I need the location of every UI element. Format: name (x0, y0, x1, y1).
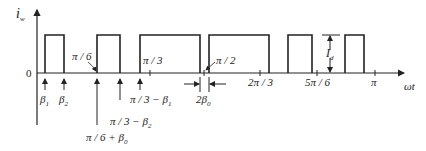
pulse-2 (97, 35, 120, 73)
origin-label: 0 (26, 67, 32, 79)
pi3-minus-beta1-label: π / 3 − β1 (130, 93, 171, 108)
five-pi6-label: 5π / 6 (305, 76, 331, 88)
pi2-label: π / 2 (216, 54, 236, 66)
pi3-minus-beta2-label: π / 3 − β2 (110, 115, 152, 130)
amplitude-label: Id (325, 46, 334, 62)
x-axis-label: ωt (404, 80, 416, 92)
pi-label: π (371, 76, 377, 88)
pi6-pointer (88, 62, 96, 71)
pulse-5 (288, 35, 312, 73)
two-beta0-dimension (184, 77, 226, 92)
pulse-train (45, 35, 364, 73)
pulse-1 (45, 35, 64, 73)
two-beta0-label: 2β0 (196, 93, 211, 108)
beta1-label: β1 (39, 93, 49, 108)
pi6-label: π / 6 (72, 50, 92, 62)
pi3-label: π / 3 (143, 54, 163, 66)
two-pi3-label: 2π / 3 (248, 76, 274, 88)
y-axis-label: iw (16, 6, 25, 23)
waveform-diagram: iw 0 ωt Id π / (0, 0, 426, 151)
pi2-pointer (206, 62, 215, 70)
beta2-label: β2 (58, 93, 68, 108)
pi6-plus-beta0-label: π / 6 + β0 (86, 131, 128, 146)
pulse-6 (345, 35, 364, 73)
